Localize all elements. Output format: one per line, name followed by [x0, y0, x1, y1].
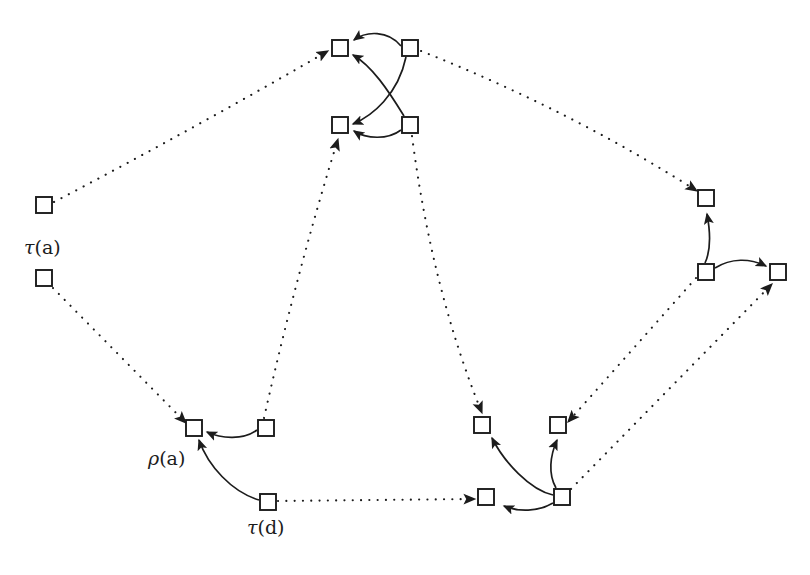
label-tau-d-symbol: τ: [247, 516, 258, 538]
graph-canvas: [0, 0, 810, 575]
node-bottom-left-right[interactable]: [258, 420, 274, 436]
curved-arrow-top-right-lower-to-top-left-lower: [354, 130, 401, 137]
node-tau-d[interactable]: [260, 494, 276, 510]
dotted-edge-tau-d-to-bottom-right-bottom-left: [278, 499, 475, 501]
label-tau-d: τ(d): [247, 516, 285, 538]
dotted-edge-tau-a-lower-to-rho-a: [53, 288, 186, 423]
curved-arrow-bottom-right-bottom-right-to-top-left: [492, 438, 553, 495]
dotted-edge-tau-a-upper-to-top-left-upper: [54, 51, 328, 202]
nodes-layer: [36, 40, 786, 510]
node-tau-a-lower[interactable]: [36, 270, 52, 286]
diagram-root: τ(a)ρ(a)τ(d): [0, 0, 810, 575]
node-rho-a[interactable]: [186, 420, 202, 436]
curved-arrow-tau-d-to-rho-a: [199, 440, 259, 500]
node-right-far[interactable]: [770, 264, 786, 280]
node-bottom-right-top-left[interactable]: [474, 417, 490, 433]
solid-edges-layer: [199, 34, 766, 511]
label-tau-a-arg: (a): [35, 236, 61, 258]
node-bottom-right-bottom-right[interactable]: [554, 489, 570, 505]
node-top-left-lower[interactable]: [332, 117, 348, 133]
curved-arrow-bottom-right-bottom-right-to-top-right: [551, 440, 557, 488]
dotted-edge-bottom-left-right-to-top-left-lower: [264, 139, 338, 418]
node-right-upper[interactable]: [698, 190, 714, 206]
label-rho-a-symbol: ρ: [148, 447, 159, 469]
dotted-edge-right-middle-to-bottom-right-top-right: [568, 278, 696, 422]
curved-arrow-right-middle-to-right-far: [715, 260, 766, 268]
label-rho-a-arg: (a): [159, 447, 185, 469]
node-right-middle[interactable]: [698, 264, 714, 280]
node-tau-a-upper[interactable]: [36, 197, 52, 213]
dotted-edge-top-right-lower-to-bottom-right-top-left: [412, 136, 482, 413]
label-tau-a-symbol: τ: [24, 236, 35, 258]
curved-arrow-right-middle-to-right-upper: [705, 214, 710, 263]
node-bottom-right-bottom-left[interactable]: [478, 489, 494, 505]
dotted-edge-bottom-right-bottom-right-to-right-far: [571, 284, 772, 489]
node-top-left-upper[interactable]: [332, 40, 348, 56]
curved-arrow-bottom-left-right-to-rho-a: [207, 430, 257, 437]
node-bottom-right-top-right[interactable]: [550, 417, 566, 433]
label-rho-a: ρ(a): [148, 447, 185, 469]
label-tau-d-arg: (d): [258, 516, 285, 538]
label-tau-a: τ(a): [24, 236, 61, 258]
dotted-edge-top-right-upper-to-right-upper: [421, 51, 697, 191]
node-top-right-lower[interactable]: [402, 117, 418, 133]
curved-arrow-bottom-right-bottom-right-to-bottom-left: [504, 503, 553, 510]
node-top-right-upper[interactable]: [402, 40, 418, 56]
curved-arrow-top-right-upper-to-top-left-lower: [353, 57, 406, 124]
curved-arrow-top-right-upper-to-top-left-upper: [354, 34, 401, 46]
